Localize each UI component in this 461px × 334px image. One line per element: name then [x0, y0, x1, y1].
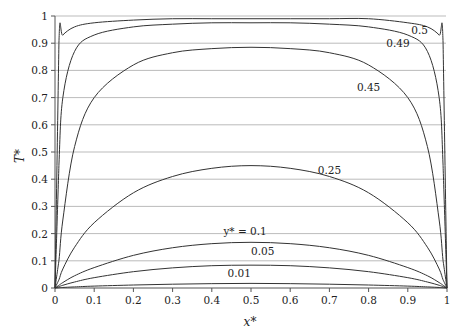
curve-label: y* = 0.1 — [222, 225, 266, 237]
x-tick-label: 0.9 — [399, 294, 416, 306]
x-tick-label: 0.8 — [360, 294, 377, 306]
curve-labels: 0.50.490.450.25y* = 0.10.050.01 — [222, 24, 427, 279]
y-tick-label: 0 — [41, 282, 48, 294]
tick-labels: 00.10.20.30.40.50.60.70.80.9100.10.20.30… — [31, 10, 450, 306]
y-tick-label: 0.1 — [31, 255, 48, 267]
y-tick-label: 1 — [41, 10, 48, 22]
chart-canvas: 00.10.20.30.40.50.60.70.80.9100.10.20.30… — [0, 0, 461, 334]
y-tick-label: 0.7 — [31, 92, 48, 104]
curve-label: 0.25 — [318, 164, 341, 176]
x-tick-label: 0.7 — [321, 294, 338, 306]
x-tick-label: 0.5 — [243, 294, 260, 306]
axes — [51, 16, 447, 292]
y-axis-label: T* — [13, 149, 27, 163]
curve-0.01 — [55, 283, 447, 288]
x-tick-label: 0.3 — [164, 294, 181, 306]
x-tick-label: 0.2 — [125, 294, 142, 306]
x-tick-label: 0 — [52, 294, 59, 306]
y-tick-label: 0.2 — [31, 228, 48, 240]
curve-0.05 — [55, 265, 447, 288]
curve-label: 0.01 — [228, 267, 251, 279]
curve-label: 0.05 — [251, 245, 274, 257]
y-tick-label: 0.4 — [31, 173, 48, 185]
x-tick-label: 1 — [444, 294, 451, 306]
curve-label: 0.49 — [386, 37, 409, 49]
curve-label: 0.45 — [357, 81, 380, 93]
y-tick-label: 0.8 — [31, 64, 48, 76]
y-tick-label: 0.5 — [31, 146, 48, 158]
x-tick-label: 0.6 — [282, 294, 299, 306]
y-tick-label: 0.9 — [31, 37, 48, 49]
y-tick-label: 0.3 — [31, 200, 48, 212]
y-tick-label: 0.6 — [31, 119, 48, 131]
curve-label: 0.5 — [411, 24, 428, 36]
x-tick-label: 0.1 — [86, 294, 103, 306]
x-axis-label: x* — [244, 315, 257, 329]
x-tick-label: 0.4 — [203, 294, 220, 306]
